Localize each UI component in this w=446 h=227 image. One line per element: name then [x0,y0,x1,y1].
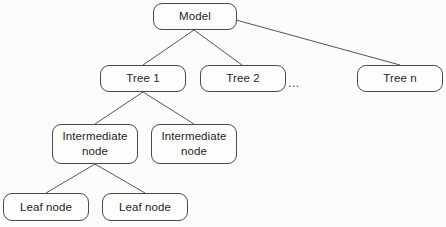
edge-model-to-treen [236,20,400,65]
edge-inter1-to-leaf1 [46,164,95,193]
edge-tree1-to-inter1 [95,92,143,124]
node-leaf-2[interactable]: Leaf node [102,193,188,221]
tree-diagram: Model Tree 1 Tree 2 Tree n Intermediate … [0,0,446,227]
edge-tree1-to-inter2 [143,92,194,124]
node-leaf-1[interactable]: Leaf node [3,193,89,221]
node-tree-2[interactable]: Tree 2 [200,65,286,92]
node-tree-n[interactable]: Tree n [357,65,443,92]
node-model[interactable]: Model [153,3,237,30]
edge-inter1-to-leaf2 [95,164,145,193]
node-intermediate-1[interactable]: Intermediate node [52,124,138,164]
ellipsis-more-trees: ... [288,77,300,89]
node-intermediate-2[interactable]: Intermediate node [151,124,237,164]
edge-model-to-tree1 [143,30,194,65]
node-tree-1[interactable]: Tree 1 [100,65,186,92]
edge-model-to-tree2 [194,30,242,65]
